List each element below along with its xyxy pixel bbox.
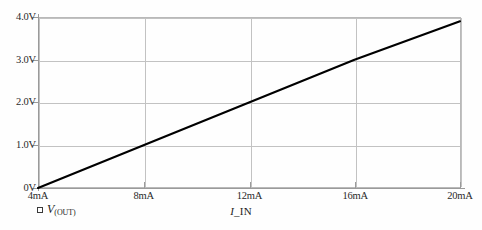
gridline-horizontal-2.0V — [39, 103, 460, 104]
x-axis-title-rest: _IN — [234, 205, 252, 217]
x-tick-label-4: 20mA — [437, 190, 482, 201]
x-tick-label-2: 12mA — [227, 190, 273, 201]
y-tick-label-1: 1.0V — [2, 140, 36, 150]
legend: V(OUT) — [37, 202, 76, 217]
x-tick-label-0: 4mA — [15, 190, 61, 201]
chart-figure: 4.0V 3.0V 2.0V 1.0V 0V 4mA 8mA 12mA 16mA… — [0, 0, 482, 230]
y-tick-label-4: 4.0V — [2, 12, 36, 22]
gridline-vertical-4mA — [39, 18, 40, 187]
gridline-vertical-8mA — [145, 18, 146, 187]
legend-subscript: (OUT) — [54, 208, 75, 217]
y-tick-label-3: 3.0V — [2, 55, 36, 65]
gridline-horizontal-1.0V — [39, 146, 460, 147]
x-tick-label-3: 16mA — [332, 190, 378, 201]
square-marker-icon — [37, 207, 43, 213]
x-tick-label-1: 8mA — [121, 190, 167, 201]
x-tickmark-16mA — [355, 182, 356, 189]
gridline-vertical-12mA — [251, 18, 252, 187]
x-tickmark-4mA — [38, 182, 39, 189]
y-tick-label-2: 2.0V — [2, 97, 36, 107]
plot-area — [38, 17, 461, 188]
legend-label-vout: V(OUT) — [47, 202, 76, 217]
gridline-horizontal-3.0V — [39, 61, 460, 62]
gridline-vertical-20mA — [461, 18, 462, 187]
x-tickmark-8mA — [144, 182, 145, 189]
gridline-vertical-16mA — [356, 18, 357, 187]
gridline-horizontal-4.0V — [39, 18, 460, 19]
x-tickmark-20mA — [460, 182, 461, 189]
x-tickmark-12mA — [250, 182, 251, 189]
